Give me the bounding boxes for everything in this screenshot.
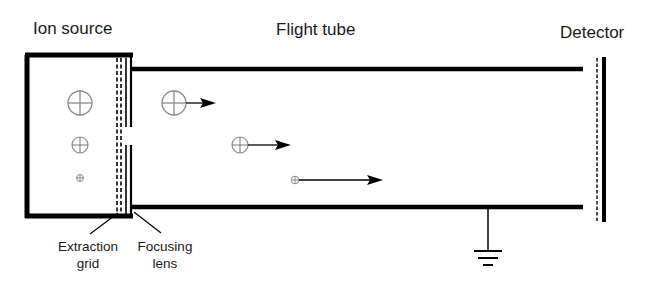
source-ion-medium (72, 137, 88, 153)
flight-ion-medium (232, 137, 291, 153)
extraction-grid (117, 58, 121, 214)
flight-ion-large (162, 91, 216, 115)
extraction-grid-label: Extraction grid (48, 238, 128, 272)
flight-tube-label: Flight tube (276, 20, 355, 40)
focusing-lens-label-line1: Focusing (130, 238, 200, 255)
flight-ion-small (291, 175, 383, 185)
detector-plate (597, 57, 604, 222)
focusing-lens (126, 55, 131, 216)
extraction-grid-label-line2: grid (48, 255, 128, 272)
focusing-lens-label: Focusing lens (130, 238, 200, 272)
focusing-lens-label-line2: lens (130, 255, 200, 272)
ion-source-label: Ion source (33, 19, 112, 39)
source-ion-large (68, 91, 92, 115)
focusing-lens-leader (134, 212, 161, 233)
extraction-grid-label-line1: Extraction (48, 238, 128, 255)
ground-icon (474, 207, 502, 265)
detector-label: Detector (560, 23, 624, 43)
source-ion-small (77, 175, 84, 182)
flight-tube (131, 69, 583, 207)
